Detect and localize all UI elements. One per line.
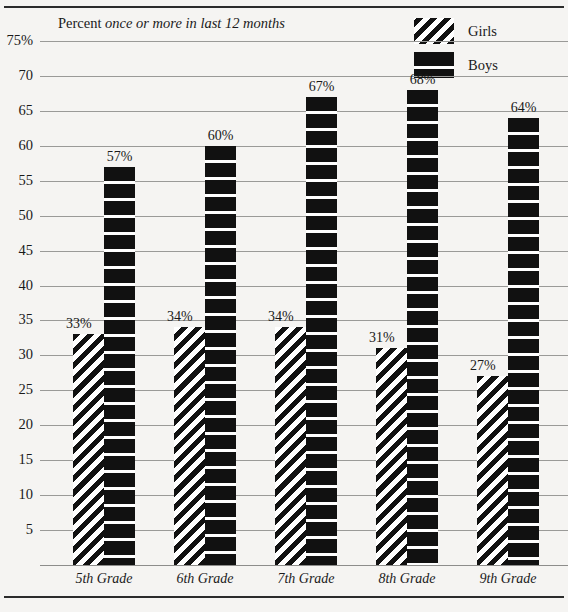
y-axis-tick-label: 50: [0, 208, 33, 223]
bar-chart: Percent once or more in last 12 months G…: [0, 0, 568, 612]
bar-value-label: 34%: [268, 310, 294, 324]
gridline: [40, 76, 568, 77]
y-axis-tick-label: 15: [0, 452, 33, 467]
bar-value-label: 34%: [167, 310, 193, 324]
y-axis-tick-label: 40: [0, 278, 33, 293]
bar-girls-9th-grade: 27%: [477, 376, 508, 565]
bar-value-label: 67%: [309, 80, 335, 94]
bar-value-label: 57%: [107, 150, 133, 164]
y-axis-tick-label: 25: [0, 382, 33, 397]
plot-area: 75%70656055504540353025201510533%57%5th …: [0, 0, 568, 590]
y-axis-tick-label: 5: [0, 522, 33, 537]
x-axis-baseline: [40, 565, 568, 566]
y-axis-tick-label: 30: [0, 347, 33, 362]
bar-girls-6th-grade: 34%: [174, 327, 205, 565]
y-axis-tick-label: 35: [0, 312, 33, 327]
bar-boys-9th-grade: 64%: [508, 118, 539, 565]
bar-boys-8th-grade: 68%: [407, 90, 438, 565]
bar-girls-7th-grade: 34%: [275, 327, 306, 565]
y-axis-tick-label: 65: [0, 103, 33, 118]
bar-value-label: 31%: [369, 331, 395, 345]
bar-value-label: 60%: [208, 129, 234, 143]
bar-value-label: 27%: [470, 359, 496, 373]
bar-boys-5th-grade: 57%: [104, 167, 135, 565]
bar-girls-8th-grade: 31%: [376, 348, 407, 565]
gridline: [40, 111, 568, 112]
y-axis-tick-label: 20: [0, 417, 33, 432]
bar-value-label: 64%: [511, 101, 537, 115]
y-axis-tick-label: 55: [0, 173, 33, 188]
y-axis-tick-label: 70: [0, 68, 33, 83]
y-axis-tick-label: 45: [0, 243, 33, 258]
y-axis-tick-label: 75%: [0, 33, 33, 48]
bar-value-label: 33%: [66, 317, 92, 331]
bar-boys-7th-grade: 67%: [306, 97, 337, 565]
bottom-divider-rule: [4, 596, 564, 598]
x-axis-label-9th-grade: 9th Grade: [449, 571, 567, 587]
y-axis-tick-label: 60: [0, 138, 33, 153]
bar-girls-5th-grade: 33%: [73, 334, 104, 565]
gridline: [40, 41, 568, 42]
bar-value-label: 68%: [410, 73, 436, 87]
gridline: [40, 146, 568, 147]
bar-boys-6th-grade: 60%: [205, 146, 236, 565]
y-axis-tick-label: 10: [0, 487, 33, 502]
